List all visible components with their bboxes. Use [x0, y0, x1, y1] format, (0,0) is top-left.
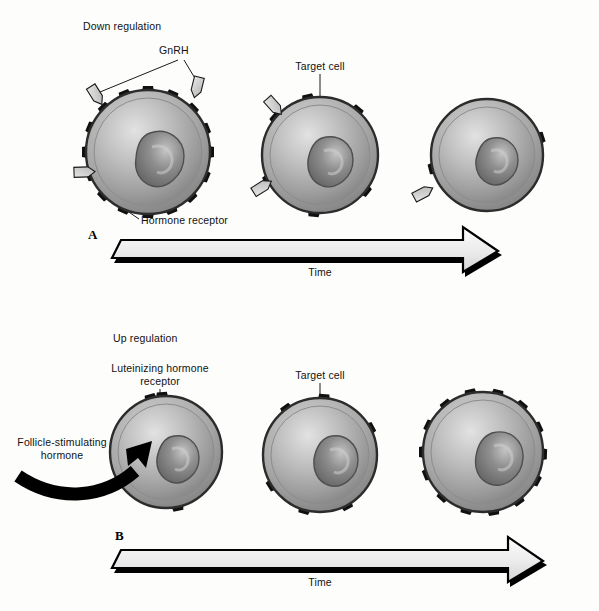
nucleus-highlight-b2	[330, 449, 348, 473]
ligands-a3	[412, 183, 435, 202]
cytoplasm-a3	[439, 107, 535, 203]
label-fsh-line2: hormone	[41, 449, 84, 462]
ligand-gnrh-a3-1	[412, 183, 435, 202]
panel-letter-b: B	[115, 528, 124, 544]
nucleus-b2	[314, 436, 358, 486]
cell-b1	[110, 392, 222, 512]
receptors-a3	[427, 130, 546, 177]
cell-membrane-b1	[110, 396, 222, 508]
label-fsh-line1: Follicle-stimulating	[17, 436, 106, 449]
diagram-graphics-layer	[0, 0, 599, 611]
label-target-cell-a: Target cell	[295, 60, 345, 73]
label-lh-receptor-line2: receptor	[140, 375, 180, 388]
cell-a2	[261, 93, 378, 217]
hormone-regulation-figure: Down regulation GnRH Target cell Hormone…	[0, 0, 599, 611]
nucleus-a3	[476, 138, 518, 185]
receptors-a2	[261, 93, 373, 217]
cell-membrane-a2	[262, 97, 378, 213]
receptors-a1	[82, 86, 214, 218]
ligand-gnrh-a2-1	[264, 95, 285, 117]
cytoplasm-a2	[270, 105, 370, 205]
cytoplasm-b1	[118, 404, 214, 500]
cell-membrane-b2	[263, 398, 377, 512]
cytoplasm-b2	[271, 406, 369, 504]
nucleus-highlight-b1	[172, 448, 188, 470]
cell-b2	[263, 394, 377, 516]
ligand-gnrh-a2-2	[251, 177, 274, 197]
cell-a3	[427, 99, 546, 211]
cell-b3	[419, 388, 547, 516]
nucleus-a2	[308, 137, 353, 187]
nucleus-a1	[136, 131, 184, 186]
ligands-a1	[74, 76, 204, 177]
time-arrow-a	[112, 227, 502, 277]
time-arrow-a-body	[112, 227, 498, 272]
timeline-caption-b: Time	[308, 576, 332, 589]
nucleus-b1	[157, 436, 199, 483]
receptors-b2	[265, 394, 378, 516]
cytoplasm-a1	[94, 98, 202, 206]
label-hormone-receptor: Hormone receptor	[141, 214, 228, 227]
panel-b-heading: Up regulation	[113, 332, 177, 345]
ligand-gnrh-a1-1	[86, 84, 106, 107]
nucleus-highlight-a1	[152, 146, 172, 173]
receptors-b3	[419, 388, 547, 516]
cell-membrane-a1	[86, 90, 210, 214]
ligand-gnrh-a1-2	[189, 76, 204, 99]
label-target-cell-b: Target cell	[295, 369, 345, 382]
label-gnrh: GnRH	[159, 44, 189, 57]
cytoplasm-b3	[431, 400, 535, 504]
label-lh-receptor-line1: Luteinizing hormone	[111, 362, 208, 375]
leader-line-gnrh	[100, 60, 196, 92]
cell-a1	[82, 86, 214, 218]
leader-line-hormone-receptor	[120, 206, 139, 219]
panel-a-heading: Down regulation	[83, 20, 161, 33]
panel-letter-a: A	[88, 227, 97, 243]
nucleus-highlight-b3	[494, 445, 512, 470]
ligands-a2	[251, 95, 285, 196]
timeline-caption-a: Time	[308, 266, 332, 279]
ligand-gnrh-a1-3	[74, 167, 95, 178]
cell-membrane-b3	[423, 392, 543, 512]
nucleus-highlight-a2	[324, 150, 342, 174]
receptors-b1	[143, 392, 186, 512]
cell-membrane-a3	[431, 99, 543, 211]
nucleus-highlight-a3	[491, 150, 507, 172]
nucleus-b3	[476, 432, 524, 485]
